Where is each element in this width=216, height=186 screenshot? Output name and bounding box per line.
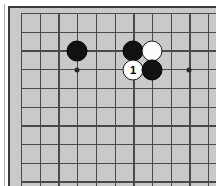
grid-line-horizontal <box>21 50 216 51</box>
move-number-label: 1 <box>130 65 136 76</box>
board-frame-left-edge <box>8 6 10 186</box>
grid-line-vertical <box>40 13 41 186</box>
go-board-diagram: 1 <box>0 0 216 186</box>
black-stone-left[interactable] <box>67 41 88 62</box>
grid-line-horizontal <box>21 144 216 145</box>
grid-line-vertical <box>152 13 153 186</box>
grid-line-vertical <box>133 13 134 186</box>
star-point-left <box>75 68 80 73</box>
grid-line-vertical <box>189 13 190 186</box>
grid-line-vertical <box>77 13 78 186</box>
white-stone-upper-right[interactable] <box>142 41 163 62</box>
black-stone-upper[interactable] <box>123 41 144 62</box>
grid-line-vertical <box>208 13 209 186</box>
grid-line-horizontal <box>21 13 216 14</box>
grid-line-vertical <box>96 13 97 186</box>
grid-line-vertical <box>115 13 116 186</box>
grid-line-horizontal <box>21 88 216 89</box>
grid-line-horizontal <box>21 163 216 164</box>
grid-line-horizontal <box>21 107 216 108</box>
grid-line-horizontal <box>21 125 216 126</box>
white-stone-move-1[interactable]: 1 <box>123 60 144 81</box>
grid-line-vertical <box>171 13 172 186</box>
board-frame-top-edge <box>8 6 216 8</box>
grid-line-horizontal <box>21 32 216 33</box>
board-outer-edge <box>4 4 5 186</box>
grid-line-vertical <box>58 13 59 186</box>
star-point-right <box>187 68 192 73</box>
grid-line-horizontal <box>21 181 216 182</box>
grid-line-vertical <box>21 13 22 186</box>
black-stone-lower-right[interactable] <box>142 60 163 81</box>
